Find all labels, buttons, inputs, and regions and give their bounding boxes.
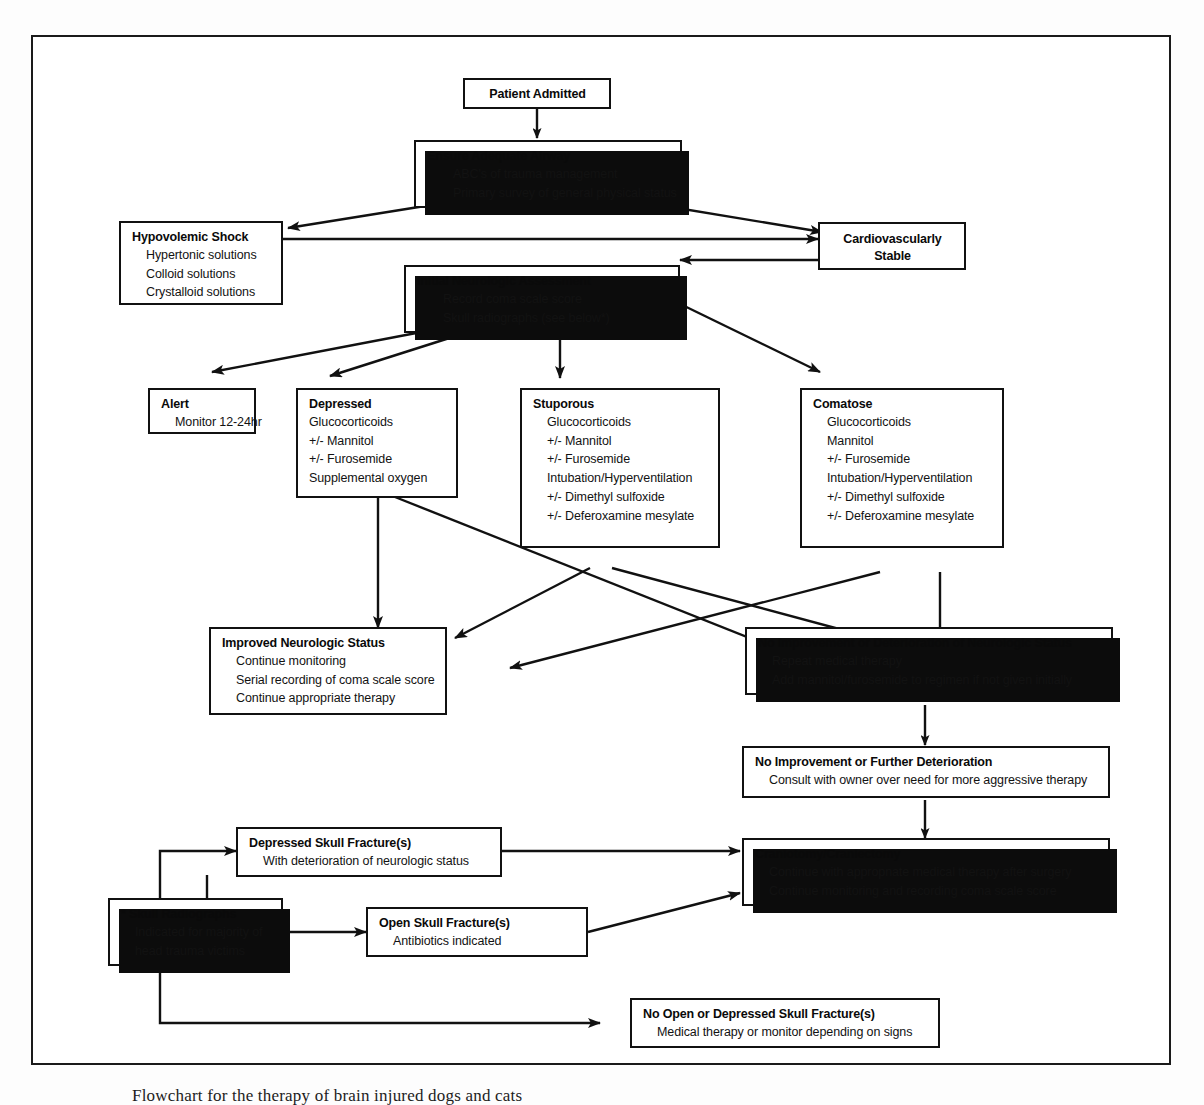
node-improved-line-2: Serial recording of coma scale score	[222, 671, 435, 690]
node-skull-radiographs[interactable]: * Skull Radiographs Indicated for majori…	[108, 898, 283, 966]
node-no-fracture-line-1: Medical therapy or monitor depending on …	[643, 1023, 928, 1042]
node-comatose-line-3: +/- Furosemide	[813, 450, 992, 469]
node-hypovolemic-shock-line-2: Colloid solutions	[132, 265, 271, 284]
node-patient-admitted[interactable]: Patient Admitted	[463, 78, 611, 109]
node-skull-radiographs-line-1: Indicated for majority of	[121, 923, 271, 942]
node-no-improvement[interactable]: No Improvement or Deterioration of Neuro…	[745, 627, 1113, 695]
node-no-fracture-title: No Open or Depressed Skull Fracture(s)	[643, 1006, 928, 1023]
node-comatose-title: Comatose	[813, 396, 992, 413]
node-depressed[interactable]: Depressed Glucocorticoids +/- Mannitol +…	[296, 388, 458, 498]
node-open-fracture[interactable]: Open Skull Fracture(s) Antibiotics indic…	[366, 907, 588, 957]
node-stuporous-line-6: +/- Deferoxamine mesylate	[533, 507, 708, 526]
node-ensure-airway[interactable]: Ensure Adequate Airway ABC's of trauma m…	[414, 140, 682, 208]
node-depressed-line-3: +/- Furosemide	[309, 450, 446, 469]
node-cardiovascularly-stable-title: Cardiovascularly	[831, 231, 954, 248]
node-stuporous-line-3: +/- Furosemide	[533, 450, 708, 469]
node-further-deterioration-line-1: Consult with owner over need for more ag…	[755, 771, 1098, 790]
node-stuporous[interactable]: Stuporous Glucocorticoids +/- Mannitol +…	[520, 388, 720, 548]
node-hypovolemic-shock-title: Hypovolemic Shock	[132, 229, 271, 246]
node-further-deterioration[interactable]: No Improvement or Further Deterioration …	[742, 746, 1110, 798]
node-patient-admitted-title: Patient Admitted	[476, 86, 599, 103]
node-hypovolemic-shock-line-1: Hypertonic solutions	[132, 246, 271, 265]
node-improved-title: Improved Neurologic Status	[222, 635, 435, 652]
node-hypovolemic-shock[interactable]: Hypovolemic Shock Hypertonic solutions C…	[119, 221, 283, 305]
node-initial-neuro-line-2: Skull radiographs (see below*)	[417, 309, 668, 328]
node-ensure-airway-line-2: Primary survey of general physical statu…	[427, 184, 670, 203]
node-alert-title: Alert	[161, 396, 244, 413]
node-open-fracture-line-1: Antibiotics indicated	[379, 932, 576, 951]
node-stuporous-line-4: Intubation/Hyperventilation	[533, 469, 708, 488]
node-initial-neuro-line-1: Record coma scale score	[417, 290, 668, 309]
node-depressed-fracture-line-1: With deterioration of neurologic status	[249, 852, 490, 871]
node-stuporous-line-5: +/- Dimethyl sulfoxide	[533, 488, 708, 507]
node-improved-line-3: Continue appropriate therapy	[222, 689, 435, 708]
node-ensure-airway-title: Ensure Adequate Airway	[427, 148, 670, 165]
node-comatose-line-2: Mannitol	[813, 432, 992, 451]
node-comatose[interactable]: Comatose Glucocorticoids Mannitol +/- Fu…	[800, 388, 1004, 548]
node-craniotomy-line-2: Continue monitoring and recording coma s…	[755, 882, 1098, 901]
node-comatose-line-5: +/- Dimethyl sulfoxide	[813, 488, 992, 507]
node-depressed-fracture-title: Depressed Skull Fracture(s)	[249, 835, 490, 852]
node-initial-neuro-title: Initial Neurologic Assessment	[417, 273, 668, 290]
node-skull-radiographs-title: * Skull Radiographs	[121, 906, 271, 923]
node-craniotomy-line-1: Continue with appropnate medical therapy…	[755, 863, 1098, 882]
node-comatose-line-4: Intubation/Hyperventilation	[813, 469, 992, 488]
node-initial-neuro[interactable]: Initial Neurologic Assessment Record com…	[404, 265, 680, 333]
node-further-deterioration-title: No Improvement or Further Deterioration	[755, 754, 1098, 771]
node-depressed-line-1: Glucocorticoids	[309, 413, 446, 432]
node-craniotomy[interactable]: Craniotomy/Craniectomy Continue with app…	[742, 838, 1110, 906]
node-depressed-line-2: +/- Mannitol	[309, 432, 446, 451]
node-skull-radiographs-line-2: head trauma victims	[121, 942, 271, 961]
flowchart-page: Patient Admitted Ensure Adequate Airway …	[0, 0, 1204, 1105]
node-depressed-fracture[interactable]: Depressed Skull Fracture(s) With deterio…	[236, 827, 502, 877]
node-cardiovascularly-stable[interactable]: Cardiovascularly Stable	[818, 222, 966, 270]
node-alert-line-1: Monitor 12-24hr	[161, 413, 244, 432]
node-hypovolemic-shock-line-3: Crystalloid solutions	[132, 283, 271, 302]
node-stuporous-line-1: Glucocorticoids	[533, 413, 708, 432]
node-depressed-title: Depressed	[309, 396, 446, 413]
node-improved[interactable]: Improved Neurologic Status Continue moni…	[209, 627, 447, 715]
node-craniotomy-title: Craniotomy/Craniectomy	[755, 846, 1098, 863]
node-no-improvement-line-2: Add mannitol/furosemide to regimen if no…	[758, 671, 1101, 690]
node-comatose-line-6: +/- Deferoxamine mesylate	[813, 507, 992, 526]
node-stuporous-title: Stuporous	[533, 396, 708, 413]
node-open-fracture-title: Open Skull Fracture(s)	[379, 915, 576, 932]
node-cardiovascularly-stable-title2: Stable	[831, 248, 954, 265]
node-depressed-line-4: Supplemental oxygen	[309, 469, 446, 488]
node-no-improvement-title: No Improvement or Deterioration of Neuro…	[758, 635, 1101, 652]
figure-caption: Flowchart for the therapy of brain injur…	[132, 1086, 1032, 1105]
node-alert[interactable]: Alert Monitor 12-24hr	[148, 388, 256, 434]
node-stuporous-line-2: +/- Mannitol	[533, 432, 708, 451]
node-ensure-airway-line-1: ABC's of trauma management	[427, 165, 670, 184]
node-comatose-line-1: Glucocorticoids	[813, 413, 992, 432]
node-improved-line-1: Continue monitoring	[222, 652, 435, 671]
node-no-fracture[interactable]: No Open or Depressed Skull Fracture(s) M…	[630, 998, 940, 1048]
node-no-improvement-line-1: Repeat medical therapy	[758, 652, 1101, 671]
